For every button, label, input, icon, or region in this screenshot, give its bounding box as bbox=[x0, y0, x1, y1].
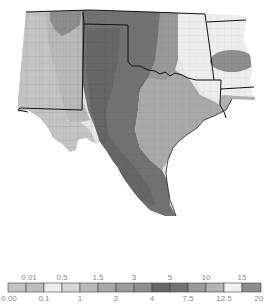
legend-swatch bbox=[26, 283, 44, 292]
map-legend: 0.01 0.5 1.5 3 5 10 15 0.00 0.1 1 2 4 7.… bbox=[0, 268, 270, 307]
legend-swatch bbox=[224, 283, 242, 292]
legend-color-bar bbox=[8, 283, 261, 292]
legend-bottom-label: 7.5 bbox=[182, 294, 194, 303]
legend-bottom-label: 2 bbox=[114, 294, 119, 303]
choropleth-map bbox=[0, 0, 270, 268]
legend-swatch bbox=[170, 283, 188, 292]
legend-bottom-label: 0.1 bbox=[38, 294, 50, 303]
legend-bottom-label: 20 bbox=[255, 294, 264, 303]
legend-top-label: 15 bbox=[238, 273, 247, 282]
legend-swatch bbox=[152, 283, 170, 292]
legend-swatch bbox=[188, 283, 206, 292]
legend-swatch bbox=[242, 283, 261, 292]
legend-top-label: 0.01 bbox=[21, 273, 37, 282]
legend-swatch bbox=[134, 283, 152, 292]
legend-top-label: 5 bbox=[168, 273, 173, 282]
legend-top-label: 1.5 bbox=[92, 273, 104, 282]
legend-swatch bbox=[116, 283, 134, 292]
land-regions bbox=[0, 0, 270, 268]
legend-swatch bbox=[80, 283, 98, 292]
legend-swatch bbox=[206, 283, 224, 292]
legend-top-label: 3 bbox=[132, 273, 137, 282]
legend-bottom-label: 1 bbox=[78, 294, 83, 303]
legend-swatch bbox=[44, 283, 62, 292]
legend-bottom-label: 4 bbox=[150, 294, 155, 303]
legend-swatch bbox=[98, 283, 116, 292]
legend-bottom-label: 0.00 bbox=[1, 294, 17, 303]
legend-bottom-label: 12.5 bbox=[216, 294, 232, 303]
legend-top-label: 10 bbox=[202, 273, 211, 282]
legend-swatch bbox=[62, 283, 80, 292]
legend-top-label: 0.5 bbox=[56, 273, 68, 282]
legend-swatch bbox=[8, 283, 26, 292]
